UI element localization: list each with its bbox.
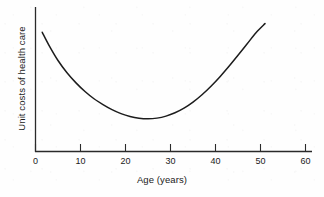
data-series-curve xyxy=(42,24,265,119)
y-axis-title: Unit costs of health care xyxy=(16,26,27,130)
x-tick-label-0: 0 xyxy=(23,156,48,167)
y-axis-title-container: Unit costs of health care xyxy=(8,14,34,142)
x-tick-label-60: 60 xyxy=(293,156,318,167)
chart-plot-area xyxy=(0,0,324,197)
x-tick-label-10: 10 xyxy=(68,156,93,167)
x-tick-label-30: 30 xyxy=(158,156,183,167)
x-tick-label-20: 20 xyxy=(113,156,138,167)
chart-figure: 0 10 20 30 40 50 60 Age (years) Unit cos… xyxy=(0,0,324,197)
x-axis-ticks xyxy=(36,144,306,151)
x-tick-label-40: 40 xyxy=(203,156,228,167)
x-tick-label-50: 50 xyxy=(248,156,273,167)
x-axis-title: Age (years) xyxy=(0,174,324,185)
